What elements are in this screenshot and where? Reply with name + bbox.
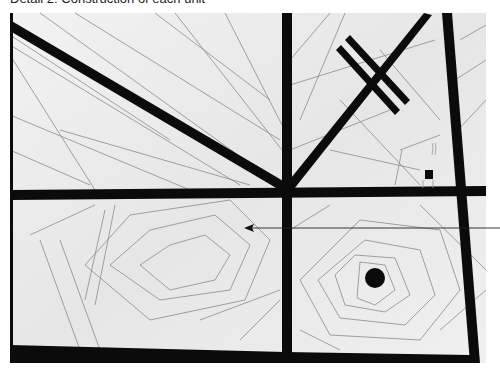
black-dot	[365, 268, 385, 288]
quilt-photo	[0, 0, 500, 372]
